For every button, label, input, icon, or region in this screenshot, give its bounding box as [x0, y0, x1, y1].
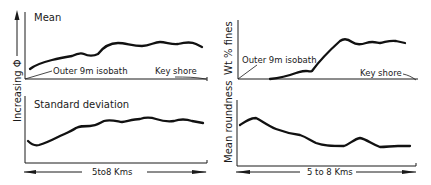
- left-arrow-icon: [236, 170, 250, 174]
- sd-curve: [28, 118, 203, 146]
- left-axis-label-group: Increasing Φ: [12, 10, 23, 122]
- fines-ylabel: Wt % fines: [223, 21, 234, 75]
- mean-start-label: Outer 9m isobath: [53, 66, 128, 76]
- left-axis-label: Increasing Φ: [12, 59, 23, 122]
- mean-end-label: Key shore: [155, 66, 197, 76]
- panel-mean: Mean Outer 9m isobath Key shore: [25, 12, 207, 81]
- fines-end-label: Key shore: [360, 68, 402, 78]
- mean-title: Mean: [34, 12, 61, 23]
- right-arrow-icon: [402, 170, 416, 174]
- right-arrow-icon: [192, 170, 207, 174]
- sd-title: Standard deviation: [34, 99, 129, 110]
- fines-start-label: Outer 9m isobath: [242, 55, 317, 65]
- roundness-curve: [240, 118, 410, 147]
- roundness-ylabel: Mean roundness: [223, 81, 234, 163]
- panel-roundness: Mean roundness 5 to 8 Kms: [223, 81, 416, 177]
- mean-curve: [30, 42, 202, 69]
- figure-canvas: Increasing Φ Mean Outer 9m isobath Key s…: [0, 0, 431, 185]
- fines-start-leader: [238, 65, 257, 79]
- up-arrow-icon: [15, 10, 20, 20]
- right-distance-label: 5 to 8 Kms: [307, 167, 353, 177]
- left-arrow-icon: [24, 170, 36, 174]
- roundness-axes: [237, 100, 416, 166]
- panel-fines: Wt % fines Outer 9m isobath Key shore: [223, 20, 418, 80]
- panel-standard-deviation: Standard deviation 5to8 Kms: [24, 96, 207, 177]
- left-distance-label: 5to8 Kms: [92, 167, 133, 177]
- mean-start-leader: [25, 71, 52, 79]
